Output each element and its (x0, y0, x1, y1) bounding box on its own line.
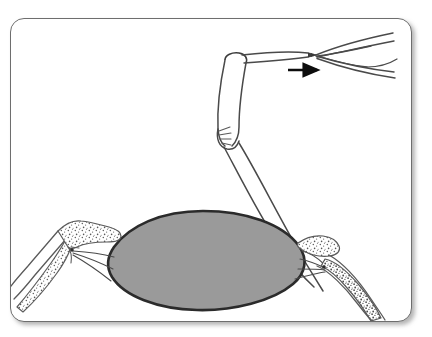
line-drawing-illustration (11, 19, 411, 321)
left-connective-fibers (73, 251, 114, 281)
figure-canvas (0, 0, 432, 337)
left-stippled-appendage (11, 221, 121, 312)
figure-frame (10, 18, 412, 322)
right-stippled-appendage (297, 236, 385, 321)
central-body (108, 211, 304, 310)
forked-tip (242, 33, 397, 78)
